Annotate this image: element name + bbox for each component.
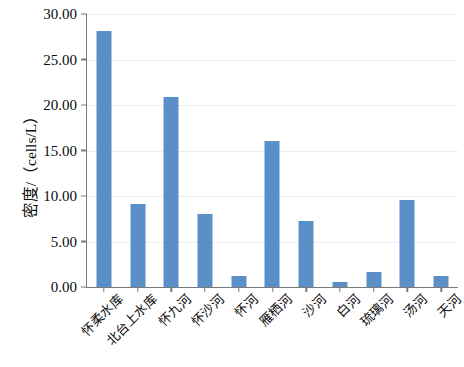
bar-slot xyxy=(256,14,290,287)
bar[interactable] xyxy=(366,272,381,287)
bar[interactable] xyxy=(96,31,111,287)
y-axis-tick: 0.00 xyxy=(51,280,87,295)
y-axis-tick-label: 5.00 xyxy=(51,234,81,249)
bar[interactable] xyxy=(130,204,145,287)
y-axis-tick: 30.00 xyxy=(43,7,87,22)
bar[interactable] xyxy=(164,97,179,287)
bar-slot xyxy=(391,14,425,287)
bar[interactable] xyxy=(265,141,280,287)
bar-slot xyxy=(424,14,458,287)
bar-slot xyxy=(154,14,188,287)
bar[interactable] xyxy=(299,221,314,287)
y-axis-tick-label: 25.00 xyxy=(43,52,81,67)
y-axis-title: 密度/（cells/L） xyxy=(18,63,40,263)
bar[interactable] xyxy=(198,214,213,287)
bar-slot xyxy=(87,14,121,287)
y-axis-tick-label: 20.00 xyxy=(43,98,81,113)
bars-layer xyxy=(87,14,458,287)
y-axis-tick-label: 10.00 xyxy=(43,189,81,204)
bar-slot xyxy=(121,14,155,287)
bar[interactable] xyxy=(400,200,415,287)
bar-slot xyxy=(357,14,391,287)
bar-slot xyxy=(323,14,357,287)
x-axis-label: 琉璃河 xyxy=(359,292,397,330)
y-axis-tick: 10.00 xyxy=(43,189,87,204)
plot-area: 0.005.0010.0015.0020.0025.0030.00 xyxy=(86,14,458,288)
y-axis-tick: 15.00 xyxy=(43,143,87,158)
x-axis-label: 怀沙河 xyxy=(190,292,228,330)
y-axis-tick: 25.00 xyxy=(43,52,87,67)
x-axis-label: 汤河 xyxy=(402,292,431,321)
x-axis-label: 沙河 xyxy=(300,292,329,321)
y-axis-tick: 5.00 xyxy=(51,234,87,249)
x-axis-label: 天河 xyxy=(436,292,464,321)
bar-slot xyxy=(222,14,256,287)
y-axis-tick-label: 30.00 xyxy=(43,7,81,22)
x-axis-label: 怀九河 xyxy=(156,292,194,330)
bar[interactable] xyxy=(434,276,449,287)
y-axis-tick-label: 0.00 xyxy=(51,280,81,295)
bar-slot xyxy=(188,14,222,287)
bar[interactable] xyxy=(231,276,246,287)
bar-slot xyxy=(289,14,323,287)
bar-chart: 密度/（cells/L） 0.005.0010.0015.0020.0025.0… xyxy=(0,0,464,367)
x-axis-labels: 怀柔水库北台上水库怀九河怀沙河怀河雁栖河沙河白河琉璃河汤河天河 xyxy=(86,292,458,367)
x-axis-label: 雁栖河 xyxy=(257,292,295,330)
y-axis-tick-label: 15.00 xyxy=(43,143,81,158)
y-axis-tick: 20.00 xyxy=(43,98,87,113)
